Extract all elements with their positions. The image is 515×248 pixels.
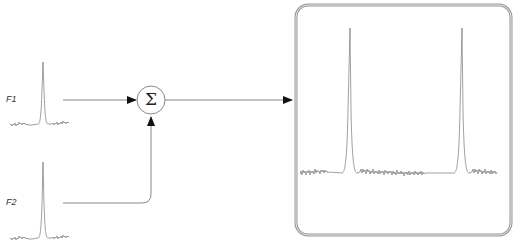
f1-trace bbox=[10, 62, 69, 126]
sigma-symbol: Σ bbox=[141, 91, 161, 108]
input-signal-f2 bbox=[10, 162, 69, 240]
f2-to-sum-arrow bbox=[63, 117, 151, 203]
summation-diagram bbox=[0, 0, 515, 248]
f2-trace bbox=[10, 162, 69, 240]
input-label-f1: F1 bbox=[6, 94, 17, 104]
input-label-f2: F2 bbox=[6, 197, 17, 207]
input-signal-f1 bbox=[10, 62, 69, 126]
output-box bbox=[296, 5, 511, 235]
output-spectrum-trace bbox=[300, 28, 497, 176]
